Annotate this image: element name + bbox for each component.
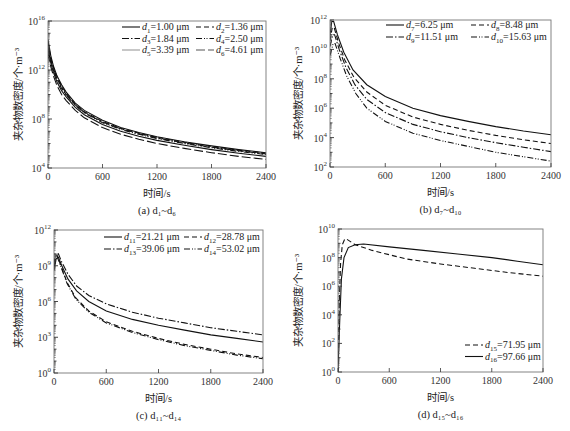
x-tick-label: 1200 (431, 170, 451, 181)
x-tick-label: 0 (336, 375, 341, 386)
series-line-d8 (330, 27, 551, 143)
x-axis-title: 时间/s (427, 186, 454, 198)
legend-entry-d13: d13=39.06 μm (124, 243, 180, 257)
y-tick-label: 100 (322, 365, 336, 378)
x-tick-label: 2400 (256, 171, 276, 182)
y-tick-label: 108 (32, 112, 46, 125)
y-tick-label: 104 (322, 308, 336, 321)
series-line-d6 (48, 53, 266, 160)
panel-caption: (b) d₇~d₁₀ (419, 204, 461, 216)
x-tick-label: 2400 (253, 376, 273, 387)
series-line-d5 (48, 49, 266, 156)
legend-entry-d16: d16=97.66 μm (485, 351, 541, 365)
legend-entry-d5: d5=3.39 μm (142, 44, 190, 58)
x-axis-title: 时间/s (143, 187, 170, 199)
y-tick-label: 106 (314, 101, 328, 114)
panel-caption: (a) d₁~d₆ (138, 205, 176, 217)
y-tick-label: 102 (314, 160, 328, 173)
series-line-d12 (54, 255, 263, 358)
chart-panel-a: 104108101210160600120018002400时间/s夹杂物数密度… (12, 14, 276, 217)
legend-entry-d6: d6=4.61 μm (216, 44, 264, 58)
x-tick-label: 2400 (541, 170, 561, 181)
plot-area (330, 22, 551, 162)
series-line-d13 (54, 254, 263, 335)
plot-area (48, 39, 266, 159)
y-axis-title: 夹杂物数密度/个·m⁻³ (12, 255, 24, 348)
y-tick-label: 1010 (310, 42, 328, 55)
y-tick-label: 1010 (318, 222, 336, 235)
panel-caption: (c) d₁₁~d₁₄ (136, 410, 181, 422)
chart-panel-c: 10010310610910120600120018002400时间/s夹杂物数… (12, 223, 273, 422)
legend-entry-d14: d14=53.02 μm (204, 243, 260, 257)
x-tick-label: 2400 (533, 375, 553, 386)
y-tick-label: 1012 (310, 13, 328, 26)
legend: d7=6.25 μmd8=8.48 μmd9=11.51 μmd10=15.63… (386, 19, 547, 45)
x-tick-label: 1200 (147, 171, 167, 182)
x-axis-title: 时间/s (427, 391, 454, 403)
series-line-d14 (54, 256, 263, 359)
series-line-d1 (48, 39, 266, 152)
panel-caption: (d) d₁₅~d₁₆ (418, 409, 464, 421)
x-tick-label: 1200 (149, 376, 169, 387)
chart-panel-b: 102104106108101010120600120018002400时间/s… (292, 13, 561, 216)
x-tick-label: 1200 (431, 375, 451, 386)
y-tick-label: 103 (38, 330, 52, 343)
x-tick-label: 0 (46, 171, 51, 182)
y-axis-title: 夹杂物数密度/个·m⁻³ (292, 254, 304, 347)
x-tick-label: 1800 (486, 170, 506, 181)
legend: d11=21.21 μmd12=28.78 μmd13=39.06 μmd14=… (104, 231, 260, 257)
legend-entry-d9: d9=11.51 μm (406, 31, 458, 45)
series-line-d9 (330, 35, 551, 152)
x-tick-label: 1800 (482, 375, 502, 386)
x-tick-label: 600 (382, 375, 397, 386)
x-tick-label: 0 (328, 170, 333, 181)
y-tick-label: 104 (314, 131, 328, 144)
y-axis-title: 夹杂物数密度/个·m⁻³ (292, 47, 304, 140)
series-line-d3 (48, 44, 266, 154)
plot-area (54, 254, 263, 359)
series-line-d10 (330, 44, 551, 162)
legend-entry-d10: d10=15.63 μm (491, 31, 547, 45)
y-tick-label: 104 (32, 161, 46, 174)
figure-canvas: 104108101210160600120018002400时间/s夹杂物数密度… (0, 0, 570, 431)
y-axis-title: 夹杂物数密度/个·m⁻³ (12, 48, 24, 141)
series-line-d11 (54, 257, 263, 342)
x-axis-title: 时间/s (145, 392, 172, 404)
y-tick-label: 1012 (34, 223, 52, 236)
x-tick-label: 0 (52, 376, 57, 387)
y-tick-label: 108 (322, 251, 336, 264)
y-tick-label: 1016 (28, 14, 46, 27)
x-tick-label: 600 (378, 170, 393, 181)
y-tick-label: 106 (322, 279, 336, 292)
legend: d1=1.00 μmd2=1.36 μmd3=1.84 μmd4=2.50 μm… (122, 21, 264, 58)
x-tick-label: 1800 (201, 376, 221, 387)
plot-frame (330, 20, 551, 167)
x-tick-label: 600 (99, 376, 114, 387)
y-tick-label: 1012 (28, 63, 46, 76)
y-tick-label: 109 (38, 259, 52, 272)
x-tick-label: 1800 (202, 171, 222, 182)
y-tick-label: 106 (38, 295, 52, 308)
y-tick-label: 100 (38, 366, 52, 379)
y-tick-label: 108 (314, 72, 328, 85)
chart-panel-d: 10010210410610810100600120018002400时间/s夹… (292, 222, 553, 421)
legend: d15=71.95 μmd16=97.66 μm (465, 339, 541, 364)
x-tick-label: 600 (95, 171, 110, 182)
y-tick-label: 102 (322, 336, 336, 349)
